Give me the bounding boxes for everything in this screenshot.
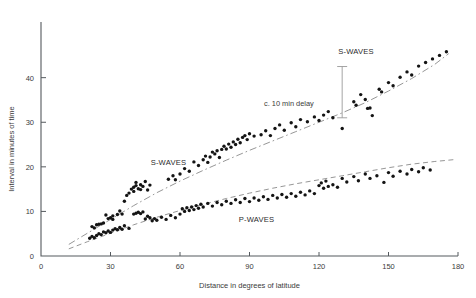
data-point [234,198,237,201]
data-point [202,158,205,161]
y-tick-label-30: 30 [26,118,34,127]
data-point [380,90,383,93]
data-point [429,168,432,171]
data-point [336,186,339,189]
data-point [164,218,167,221]
data-point [252,196,255,199]
data-point [225,147,228,150]
data-point [352,175,355,178]
data-point [239,201,242,204]
data-point [322,113,325,116]
data-point [148,216,151,219]
data-point [197,164,200,167]
x-tick-label-120: 120 [313,262,326,271]
data-point [378,88,381,91]
data-point [375,174,378,177]
data-point [215,149,218,152]
data-point [236,138,239,141]
data-point [206,202,209,205]
data-point [118,209,121,212]
data-point [341,177,344,180]
data-point [192,208,195,211]
data-point [183,167,186,170]
data-point [391,175,394,178]
data-point [243,134,246,137]
data-point [303,193,306,196]
data-point [229,202,232,205]
data-point [273,127,276,130]
data-point [229,146,232,149]
data-point [220,203,223,206]
data-point [111,214,114,217]
data-point [299,191,302,194]
x-axis-title: Distance in degrees of latitude [199,281,300,290]
y-tick-label-10: 10 [26,207,34,216]
data-point [188,170,191,173]
data-point [178,172,181,175]
data-point [368,106,371,109]
data-point [195,204,198,207]
data-point [264,129,267,132]
data-point [299,118,302,121]
x-tick-label-180: 180 [452,262,465,271]
data-point [322,187,325,190]
data-point [225,200,228,203]
data-point [167,178,170,181]
data-point [102,221,105,224]
data-point [188,209,191,212]
data-point [134,184,137,187]
data-point [181,207,184,210]
data-point [294,125,297,128]
data-point [285,196,288,199]
data-point [327,110,330,113]
data-point [202,205,205,208]
data-point [410,168,413,171]
data-point [252,134,255,137]
data-point [368,177,371,180]
data-point [331,116,334,119]
data-point [341,127,344,130]
x-tick-label-150: 150 [382,262,395,271]
data-point [417,170,420,173]
delay-label: c. 10 min delay [264,99,314,108]
data-points-group [88,50,448,240]
data-point [100,233,103,236]
data-point [410,73,413,76]
travel-time-chart: 0306090120150180010203040Distance in deg… [0,0,476,298]
data-point [246,138,249,141]
data-point [169,214,172,217]
data-point [116,213,119,216]
data-point [354,104,357,107]
data-point [359,93,362,96]
data-point [248,132,251,135]
data-point [382,181,385,184]
data-point [144,217,147,220]
p-waves-label: P-WAVES [239,215,275,224]
data-point [123,224,126,227]
data-point [387,171,390,174]
data-point [317,184,320,187]
data-point [243,197,246,200]
data-point [317,119,320,122]
data-point [280,193,283,196]
data-point [357,179,360,182]
data-point [204,154,207,157]
y-tick-label-40: 40 [26,74,34,83]
data-point [290,192,293,195]
data-point [405,70,408,73]
data-point [120,212,123,215]
x-tick-label-30: 30 [106,262,114,271]
data-point [398,170,401,173]
trend-line-p-waves [69,160,454,249]
data-point [313,192,316,195]
data-point [146,188,149,191]
data-point [313,115,316,118]
data-point [320,181,323,184]
data-point [134,181,137,184]
data-point [206,161,209,164]
data-point [211,204,214,207]
data-point [290,121,293,124]
data-point [227,142,230,145]
data-point [324,179,327,182]
y-tick-label-20: 20 [26,163,34,172]
